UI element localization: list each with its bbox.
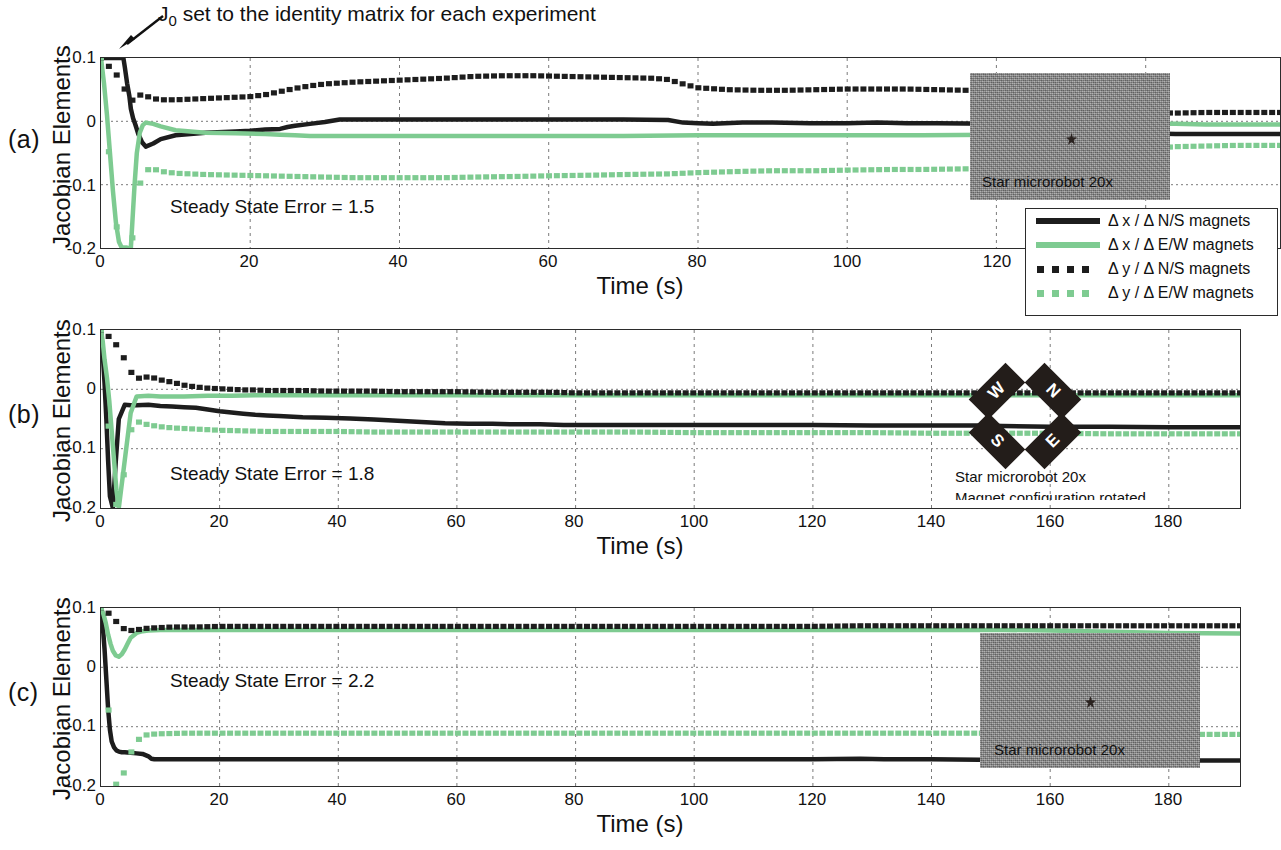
x-tick-b-5: 100 — [674, 512, 714, 532]
magnet-s: S — [969, 413, 1026, 470]
inset-caption-c: Star microrobot 20x — [994, 741, 1125, 758]
annotation-arrow-icon — [115, 14, 165, 50]
panel-b: (b) Jacobian Elements 0.1 0 -0.1 -0.2 — [0, 300, 1281, 575]
x-tick-a-3: 60 — [530, 252, 566, 272]
legend-label-1: Δ x / Δ E/W magnets — [1108, 236, 1254, 254]
panel-label-a: (a) — [8, 125, 40, 154]
x-axis-label-c: Time (s) — [560, 810, 720, 838]
steady-state-error-a: Steady State Error = 1.5 — [170, 196, 374, 218]
y-tick-b-0: 0.1 — [58, 320, 96, 340]
x-tick-b-6: 120 — [792, 512, 832, 532]
panel-label-c: (c) — [8, 678, 39, 707]
panel-a: J0 set to the identity matrix for each e… — [0, 0, 1281, 300]
x-tick-b-1: 20 — [201, 512, 237, 532]
inset-micrograph-a: Star microrobot 20x — [970, 73, 1170, 200]
steady-state-error-c: Steady State Error = 2.2 — [170, 670, 374, 692]
legend-swatch-dotted-black — [1035, 262, 1101, 276]
x-tick-a-0: 0 — [82, 252, 118, 272]
x-tick-c-7: 140 — [911, 790, 951, 810]
x-tick-b-4: 80 — [556, 512, 592, 532]
x-tick-b-3: 60 — [438, 512, 474, 532]
x-tick-a-1: 20 — [231, 252, 267, 272]
x-tick-c-9: 180 — [1148, 790, 1188, 810]
y-axis-label-a: Jacobian Elements — [48, 45, 76, 248]
x-tick-b-7: 140 — [911, 512, 951, 532]
magnet-n: N — [1025, 363, 1082, 420]
x-tick-a-5: 100 — [827, 252, 867, 272]
x-tick-c-3: 60 — [438, 790, 474, 810]
y-axis-label-b: Jacobian Elements — [48, 319, 76, 522]
steady-state-error-b: Steady State Error = 1.8 — [170, 463, 374, 485]
legend-item-0: Δ x / Δ N/S magnets — [1026, 209, 1277, 233]
x-tick-c-2: 40 — [319, 790, 355, 810]
inset-magnet-config-b: W N S E Star microrobot 20x Magnet confi… — [955, 355, 1185, 500]
legend-swatch-dotted-green — [1035, 286, 1101, 300]
x-tick-b-9: 180 — [1148, 512, 1188, 532]
x-tick-b-8: 160 — [1030, 512, 1070, 532]
x-tick-c-5: 100 — [674, 790, 714, 810]
x-tick-c-6: 120 — [792, 790, 832, 810]
annotation-rest: set to the identity matrix for each expe… — [177, 2, 596, 25]
magnet-e: E — [1025, 413, 1082, 470]
inset-caption-b-1: Magnet configuration rotated — [955, 489, 1146, 500]
panel-c: (c) Jacobian Elements 0.1 0 -0.1 -0.2 — [0, 575, 1281, 850]
x-axis-label-a: Time (s) — [560, 272, 720, 300]
x-tick-c-4: 80 — [556, 790, 592, 810]
x-tick-a-6: 120 — [977, 252, 1017, 272]
x-tick-a-2: 40 — [380, 252, 416, 272]
y-tick-a-0: 0.1 — [58, 48, 96, 68]
x-tick-c-8: 160 — [1030, 790, 1070, 810]
y-tick-a-2: -0.1 — [52, 176, 96, 196]
inset-caption-a: Star microrobot 20x — [982, 173, 1113, 190]
y-tick-c-1: 0 — [58, 657, 96, 677]
legend-item-1: Δ x / Δ E/W magnets — [1026, 233, 1277, 257]
x-tick-a-4: 80 — [679, 252, 715, 272]
legend-swatch-solid-green — [1035, 238, 1101, 252]
y-tick-b-1: 0 — [58, 379, 96, 399]
legend-item-2: Δ y / Δ N/S magnets — [1026, 257, 1277, 281]
panel-label-b: (b) — [8, 400, 40, 429]
magnet-w: W — [969, 363, 1026, 420]
y-tick-b-2: -0.1 — [52, 438, 96, 458]
legend-label-2: Δ y / Δ N/S magnets — [1108, 260, 1250, 278]
x-tick-b-2: 40 — [319, 512, 355, 532]
inset-micrograph-c: Star microrobot 20x — [980, 633, 1200, 768]
y-tick-a-1: 0 — [58, 112, 96, 132]
x-axis-label-b: Time (s) — [560, 532, 720, 560]
inset-caption-b-0: Star microrobot 20x — [955, 468, 1086, 485]
y-axis-label-c: Jacobian Elements — [48, 597, 76, 800]
y-tick-c-2: -0.1 — [52, 716, 96, 736]
annotation-subscript: 0 — [169, 12, 177, 29]
x-tick-b-0: 0 — [82, 512, 118, 532]
legend-swatch-solid-black — [1035, 214, 1101, 228]
x-tick-c-0: 0 — [82, 790, 118, 810]
y-tick-c-0: 0.1 — [58, 598, 96, 618]
identity-matrix-annotation: J0 set to the identity matrix for each e… — [158, 2, 596, 29]
legend-label-0: Δ x / Δ N/S magnets — [1108, 212, 1250, 230]
x-tick-c-1: 20 — [201, 790, 237, 810]
